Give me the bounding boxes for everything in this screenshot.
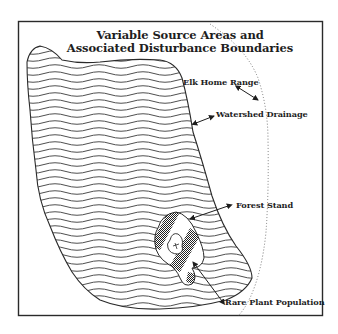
diagram-title: Variable Source Areas and Associated Dis… — [60, 29, 300, 55]
label-rare-plant-population: Rare Plant Population — [225, 298, 325, 306]
label-elk-home-range: Elk Home Range — [183, 78, 259, 86]
title-line-2: Associated Disturbance Boundaries — [60, 42, 300, 55]
diagram-canvas: Variable Source Areas and Associated Dis… — [0, 0, 338, 334]
label-forest-stand: Forest Stand — [236, 201, 293, 209]
label-watershed-drainage: Watershed Drainage — [216, 110, 308, 118]
